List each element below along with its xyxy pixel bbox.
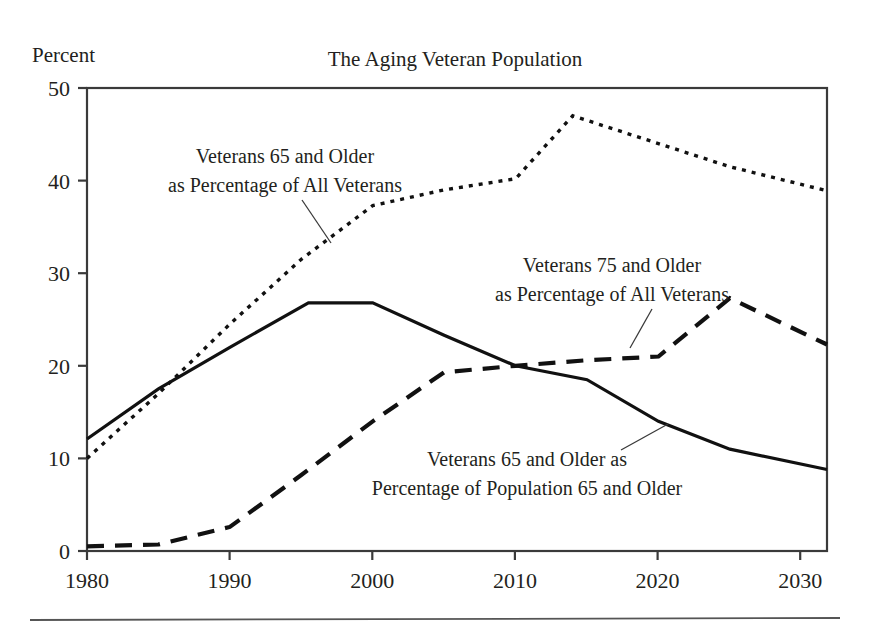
y-tick-label-40: 40 [48, 169, 70, 194]
footer-rule [30, 618, 840, 620]
y-tick-marks [78, 88, 87, 551]
annotation-b-line2: as Percentage of All Veterans [495, 283, 729, 306]
aging-veteran-population-chart: Percent The Aging Veteran Population 0 1… [0, 0, 869, 633]
y-tick-labels: 0 10 20 30 40 50 [48, 76, 70, 564]
annotation-a-line2: as Percentage of All Veterans [168, 174, 402, 197]
annotation-series-b: Veterans 75 and Older as Percentage of A… [495, 254, 729, 348]
annotation-c-line2: Percentage of Population 65 and Older [372, 477, 683, 500]
x-tick-label-2030: 2030 [778, 568, 822, 593]
y-tick-label-10: 10 [48, 446, 70, 471]
x-tick-label-2010: 2010 [493, 568, 537, 593]
y-tick-label-0: 0 [59, 539, 70, 564]
annotation-series-c: Veterans 65 and Older as Percentage of P… [372, 424, 683, 500]
series-line-veterans-75-plus-of-all-veterans [87, 298, 827, 546]
y-tick-label-50: 50 [48, 76, 70, 101]
y-tick-label-20: 20 [48, 354, 70, 379]
x-tick-marks [87, 551, 800, 560]
y-tick-label-30: 30 [48, 261, 70, 286]
annotation-c-leader [621, 424, 668, 450]
chart-title: The Aging Veteran Population [328, 47, 583, 71]
annotation-series-a: Veterans 65 and Older as Percentage of A… [168, 145, 402, 243]
annotation-a-leader [302, 200, 331, 243]
x-tick-label-2020: 2020 [636, 568, 680, 593]
x-tick-label-1980: 1980 [65, 568, 109, 593]
x-tick-label-1990: 1990 [208, 568, 252, 593]
x-tick-label-2000: 2000 [350, 568, 394, 593]
y-axis-caption: Percent [32, 43, 95, 67]
annotation-a-line1: Veterans 65 and Older [196, 145, 375, 167]
figure-container: Percent The Aging Veteran Population 0 1… [0, 0, 869, 633]
x-tick-labels: 1980 1990 2000 2010 2020 2030 [65, 568, 822, 593]
annotation-b-line1: Veterans 75 and Older [523, 254, 702, 276]
series-line-veterans-65-plus-of-population-65-plus [87, 303, 827, 470]
annotation-c-line1: Veterans 65 and Older as [427, 448, 627, 470]
annotation-b-leader [630, 309, 652, 348]
